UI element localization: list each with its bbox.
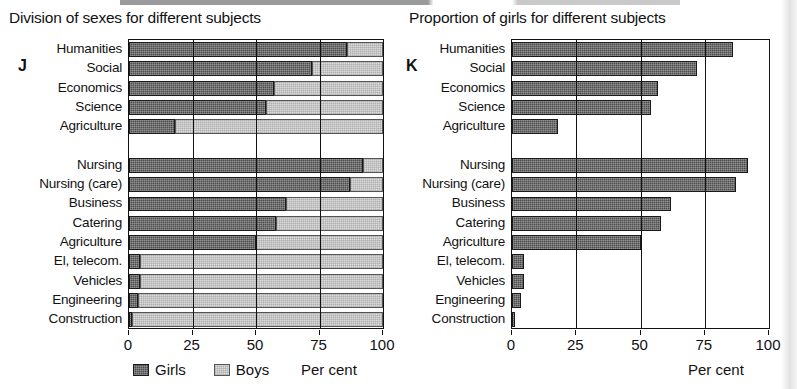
left-category-label: Economics (0, 78, 122, 97)
left-bar-girls (129, 197, 286, 212)
right-chart-title: Proportion of girls for different subjec… (409, 9, 666, 27)
right-bar-girls (512, 197, 671, 212)
left-category-label: Humanities (0, 39, 122, 58)
left-axis-tick (255, 330, 256, 335)
left-bar-boys (286, 197, 383, 212)
left-gridline (193, 40, 194, 328)
left-axis-unit-label: Per cent (301, 361, 357, 378)
left-category-label: Catering (0, 213, 122, 232)
left-bar-boys (274, 81, 383, 96)
right-bar-girls (512, 177, 736, 192)
right-axis-tick (575, 330, 576, 335)
right-category-label: Nursing (care) (400, 174, 505, 193)
left-axis-tick (319, 330, 320, 335)
left-axis-tick-label: 0 (124, 336, 132, 353)
left-category-label: Business (0, 193, 122, 212)
left-gridline (256, 40, 257, 328)
left-bar-boys (266, 100, 383, 115)
right-category-label: Science (400, 97, 505, 116)
right-bar-girls (512, 119, 558, 134)
chart-panel-right: Proportion of girls for different subjec… (400, 0, 797, 389)
girls-swatch (133, 364, 149, 376)
left-bar-boys (140, 274, 383, 289)
left-bar-girls (129, 119, 175, 134)
left-bar-girls (129, 61, 312, 76)
left-category-labels: HumanitiesSocialEconomicsScienceAgricult… (0, 39, 122, 328)
left-category-label: Agriculture (0, 232, 122, 251)
right-bar-girls (512, 81, 658, 96)
left-category-label: Engineering (0, 290, 122, 309)
left-bar-girls (129, 177, 350, 192)
boys-legend-label: Boys (236, 361, 269, 378)
left-axis-tick (382, 330, 383, 335)
right-gridline (705, 40, 706, 328)
right-axis-tick-label: 100 (755, 336, 780, 353)
left-bar-boys (138, 293, 383, 308)
right-gridline (576, 40, 577, 328)
left-bar-boys (140, 254, 383, 269)
right-axis-tick (511, 330, 512, 335)
right-category-label: Vehicles (400, 271, 505, 290)
left-category-label: Construction (0, 309, 122, 328)
right-bar-girls (512, 100, 651, 115)
left-bar-boys (363, 158, 383, 173)
right-bar-girls (512, 61, 697, 76)
left-category-label: Social (0, 58, 122, 77)
left-bar-girls (129, 293, 138, 308)
left-bar-boys (350, 177, 383, 192)
left-category-label: Vehicles (0, 271, 122, 290)
left-gridline (320, 40, 321, 328)
left-axis-tick (192, 330, 193, 335)
right-axis-unit-label: Per cent (688, 361, 744, 378)
figure-container: Division of sexes for different subjects… (0, 0, 797, 389)
right-bar-girls (512, 158, 748, 173)
right-bar-girls (512, 274, 524, 289)
left-category-label: Agriculture (0, 116, 122, 135)
boys-swatch (214, 364, 230, 376)
left-bar-girls (129, 216, 276, 231)
right-category-label: El, telecom. (400, 251, 505, 270)
left-bar-girls (129, 254, 140, 269)
left-bar-girls (129, 274, 140, 289)
left-bar-girls (129, 81, 274, 96)
left-category-label: El, telecom. (0, 251, 122, 270)
left-plot-area (128, 39, 384, 329)
right-bar-girls (512, 293, 521, 308)
left-legend: Girls Boys (133, 361, 297, 378)
right-axis-tick (768, 330, 769, 335)
left-axis-tick-label: 50 (247, 336, 264, 353)
right-category-label: Construction (400, 309, 505, 328)
right-category-label: Business (400, 193, 505, 212)
left-bar-boys (175, 119, 383, 134)
right-plot-area (511, 39, 770, 329)
page-edge-shading (781, 0, 797, 389)
left-bar-boys (276, 216, 383, 231)
left-axis-tick-label: 75 (310, 336, 327, 353)
left-category-label: Nursing (0, 155, 122, 174)
right-category-label: Engineering (400, 290, 505, 309)
right-bar-girls (512, 312, 515, 327)
right-bar-girls (512, 254, 524, 269)
right-axis-tick-label: 75 (695, 336, 712, 353)
left-bar-boys (312, 61, 383, 76)
left-bar-girls (129, 42, 347, 57)
right-axis-tick-label: 0 (507, 336, 515, 353)
right-category-label: Agriculture (400, 116, 505, 135)
left-chart-title: Division of sexes for different subjects (9, 9, 261, 27)
left-bar-girls (129, 158, 363, 173)
left-axis-tick-label: 25 (183, 336, 200, 353)
left-category-label: Science (0, 97, 122, 116)
right-category-label: Humanities (400, 39, 505, 58)
right-bar-girls (512, 42, 733, 57)
left-bar-girls (129, 100, 266, 115)
left-bar-boys (132, 312, 383, 327)
right-category-label: Agriculture (400, 232, 505, 251)
right-gridline (641, 40, 642, 328)
left-bar-boys (347, 42, 383, 57)
left-category-label: Nursing (care) (0, 174, 122, 193)
chart-panel-left: Division of sexes for different subjects… (0, 0, 400, 389)
right-axis-tick (704, 330, 705, 335)
right-category-label: Catering (400, 213, 505, 232)
right-axis-tick-label: 50 (631, 336, 648, 353)
left-axis-tick-label: 100 (369, 336, 394, 353)
